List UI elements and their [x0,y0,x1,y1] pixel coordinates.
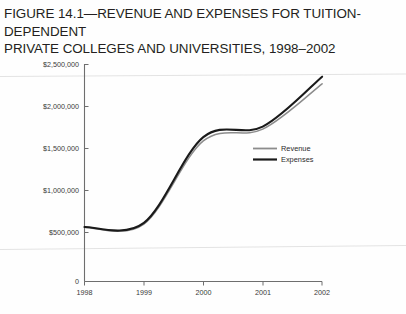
x-tick-label-2002: 2002 [314,288,330,297]
y-tick-label-1500000: $1,500,000 [43,144,79,153]
y-tick-label-2500000: $2,500,000 [43,60,79,69]
y-tick-label-500000: $500,000 [49,228,79,237]
line-chart: $2,500,000 $2,000,000 $1,500,000 $1,000,… [0,0,406,314]
scanned-page: FIGURE 14.1—REVENUE AND EXPENSES FOR TUI… [0,0,406,314]
legend-label-revenue: Revenue [281,144,311,153]
y-axis-ticks [85,65,89,282]
x-tick-label-1999: 1999 [136,288,152,297]
cropped-caption-region [0,303,406,314]
series-line-expenses [85,77,323,231]
chart-svg: $2,500,000 $2,000,000 $1,500,000 $1,000,… [0,0,406,314]
x-axis-ticks [85,282,323,286]
x-tick-label-2001: 2001 [255,288,271,297]
chart-legend: Revenue Expenses [253,144,314,164]
legend-label-expenses: Expenses [281,155,314,164]
y-tick-label-0: 0 [75,277,79,286]
y-tick-label-2000000: $2,000,000 [43,102,79,111]
x-tick-label-1998: 1998 [77,288,93,297]
y-tick-label-1000000: $1,000,000 [43,186,79,195]
x-tick-label-2000: 2000 [196,288,212,297]
